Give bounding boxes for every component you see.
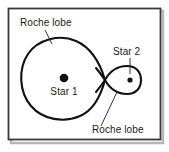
roche-lobe-diagram-svg: Roche lobe Star 1 Star 2 Roche lobe xyxy=(0,0,169,152)
figure-frame-border xyxy=(9,9,161,140)
label-star-2: Star 2 xyxy=(113,46,141,57)
label-roche-lobe-top: Roche lobe xyxy=(20,17,72,28)
star-2-dot xyxy=(127,77,132,82)
star-1-dot xyxy=(60,74,69,83)
label-roche-lobe-bottom: Roche lobe xyxy=(92,124,144,135)
roche-lobe-figure: Roche lobe Star 1 Star 2 Roche lobe xyxy=(0,0,169,152)
label-star-1: Star 1 xyxy=(50,86,78,97)
